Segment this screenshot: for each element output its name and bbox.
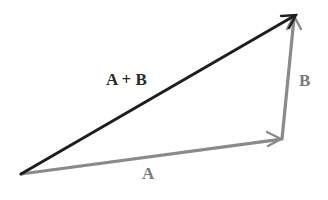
vector-sum-label: A + B [106,71,147,88]
vector-addition-diagram: A + B B A [0,0,328,200]
vector-a-label: A [142,165,154,182]
vector-sum [21,15,296,174]
vector-b-label: B [299,72,310,89]
vector-diagram-svg [0,0,328,200]
